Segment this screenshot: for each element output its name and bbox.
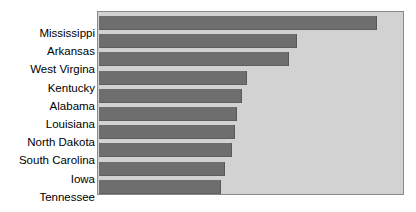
bar xyxy=(99,180,221,194)
bar-row xyxy=(99,107,237,121)
category-label: South Carolina xyxy=(0,153,95,167)
category-label: Mississippi xyxy=(0,26,95,40)
category-label: Arkansas xyxy=(0,44,95,58)
category-label: Tennessee xyxy=(0,190,95,204)
bar-row xyxy=(99,52,289,66)
category-label: Alabama xyxy=(0,99,95,113)
bar xyxy=(99,162,225,176)
bar xyxy=(99,52,289,66)
bar-row xyxy=(99,162,225,176)
category-label: North Dakota xyxy=(0,135,95,149)
category-label: Louisiana xyxy=(0,117,95,131)
bar xyxy=(99,16,377,30)
bar-row xyxy=(99,180,221,194)
category-label: West Virgina xyxy=(0,62,95,76)
bar xyxy=(99,71,247,85)
bar xyxy=(99,125,235,139)
bar xyxy=(99,89,242,103)
bar-row xyxy=(99,16,377,30)
bar xyxy=(99,107,237,121)
bar-row xyxy=(99,143,232,157)
category-label: Iowa xyxy=(0,172,95,186)
plot-area xyxy=(97,11,404,195)
bar-row xyxy=(99,34,297,48)
bar xyxy=(99,34,297,48)
bar-row xyxy=(99,71,247,85)
bar xyxy=(99,143,232,157)
chart-title xyxy=(0,0,416,7)
bar-row xyxy=(99,125,235,139)
category-label: Kentucky xyxy=(0,81,95,95)
bar-row xyxy=(99,89,242,103)
bar-series xyxy=(99,12,403,194)
category-axis-labels: MississippiArkansasWest VirginaKentuckyA… xyxy=(0,11,95,195)
